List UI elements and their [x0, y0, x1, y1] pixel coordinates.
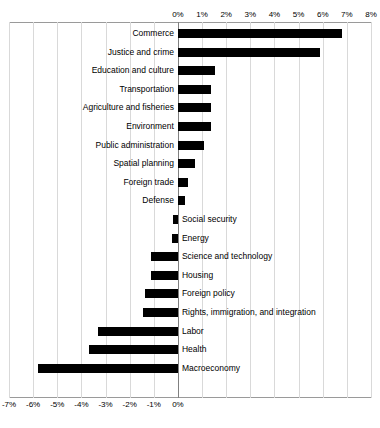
- bar-row: Public administration: [9, 138, 371, 157]
- bar: [143, 308, 178, 317]
- bar: [151, 252, 178, 261]
- bar-category-label: Housing: [182, 268, 213, 283]
- bar-category-label: Transportation: [119, 82, 174, 97]
- bar: [178, 141, 205, 150]
- bar-category-label: Education and culture: [92, 63, 174, 78]
- bar-row: Science and technology: [9, 249, 371, 268]
- bar-category-label: Foreign policy: [182, 286, 235, 301]
- bar: [178, 85, 211, 94]
- bar-row: Macroeconomy: [9, 361, 371, 380]
- axis-tick-label: 0%: [163, 400, 193, 410]
- bar: [145, 289, 178, 298]
- bar: [178, 29, 342, 38]
- bar-rows: CommerceJustice and crimeEducation and c…: [9, 22, 371, 398]
- bar-row: Social security: [9, 212, 371, 231]
- bar-category-label: Spatial planning: [113, 156, 174, 171]
- bar-row: Housing: [9, 268, 371, 287]
- bar: [178, 48, 320, 57]
- bar-row: Rights, immigration, and integration: [9, 305, 371, 324]
- bar: [178, 66, 215, 75]
- bar-category-label: Social security: [182, 212, 237, 227]
- bar-chart: 0%1%2%3%4%5%6%7%8% -7%-6%-5%-4%-3%-2%-1%…: [0, 0, 380, 428]
- bar-category-label: Foreign trade: [123, 175, 174, 190]
- gridline: [371, 22, 372, 398]
- bar-category-label: Labor: [182, 324, 204, 339]
- bar-category-label: Rights, immigration, and integration: [182, 305, 316, 320]
- bar-row: Environment: [9, 119, 371, 138]
- bar-category-label: Science and technology: [182, 249, 272, 264]
- bar-category-label: Defense: [142, 193, 174, 208]
- bar-row: Spatial planning: [9, 156, 371, 175]
- bar: [178, 196, 185, 205]
- bar: [178, 122, 211, 131]
- bar: [89, 345, 178, 354]
- axis-tick-label: 8%: [356, 10, 380, 20]
- bar: [172, 234, 178, 243]
- bar: [178, 103, 211, 112]
- bar: [98, 327, 178, 336]
- bar: [178, 178, 188, 187]
- bar-category-label: Health: [182, 342, 207, 357]
- bar-category-label: Environment: [126, 119, 174, 134]
- bar-category-label: Public administration: [96, 138, 174, 153]
- bar-category-label: Energy: [182, 231, 209, 246]
- bar-row: Agriculture and fisheries: [9, 100, 371, 119]
- plot-area: 0%1%2%3%4%5%6%7%8% -7%-6%-5%-4%-3%-2%-1%…: [9, 22, 371, 398]
- bar: [151, 271, 178, 280]
- bar: [178, 159, 195, 168]
- bar-row: Foreign policy: [9, 286, 371, 305]
- bar-row: Defense: [9, 193, 371, 212]
- bar-row: Labor: [9, 324, 371, 343]
- bar: [38, 364, 178, 373]
- bar-category-label: Justice and crime: [108, 45, 174, 60]
- bar-row: Foreign trade: [9, 175, 371, 194]
- bar: [173, 215, 178, 224]
- bar-category-label: Macroeconomy: [182, 361, 240, 376]
- bar-row: Energy: [9, 231, 371, 250]
- bar-category-label: Commerce: [132, 26, 174, 41]
- bar-row: Justice and crime: [9, 45, 371, 64]
- bar-row: Education and culture: [9, 63, 371, 82]
- bar-row: Transportation: [9, 82, 371, 101]
- bar-row: Health: [9, 342, 371, 361]
- bar-row: Commerce: [9, 26, 371, 45]
- bar-category-label: Agriculture and fisheries: [83, 100, 174, 115]
